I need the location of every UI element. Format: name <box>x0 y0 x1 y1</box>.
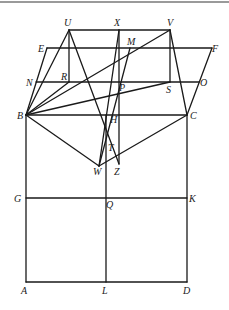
segment-MW <box>99 48 130 166</box>
point-label-O: O <box>200 77 207 88</box>
point-label-W: W <box>93 166 103 177</box>
point-label-C: C <box>190 110 197 121</box>
point-label-A: A <box>20 285 28 296</box>
point-label-K: K <box>188 193 197 204</box>
point-label-U: U <box>64 17 72 28</box>
point-label-V: V <box>167 17 175 28</box>
point-label-N: N <box>25 77 34 88</box>
segments-group <box>26 30 212 282</box>
point-label-L: L <box>101 285 108 296</box>
point-label-H: H <box>109 114 118 125</box>
point-label-Q: Q <box>106 199 114 210</box>
segment-BW <box>26 115 99 166</box>
segment-CV <box>170 30 187 115</box>
geometry-figure: UXVEMFNRPSOBHCTWZGQKALD <box>0 0 229 310</box>
point-label-P: P <box>118 82 125 93</box>
point-label-Z: Z <box>114 166 120 177</box>
point-label-D: D <box>182 285 191 296</box>
point-label-S: S <box>166 84 171 95</box>
point-label-E: E <box>37 43 44 54</box>
point-label-G: G <box>14 193 21 204</box>
point-label-R: R <box>60 71 67 82</box>
point-label-M: M <box>126 36 136 47</box>
point-label-B: B <box>17 110 23 121</box>
point-label-F: F <box>211 43 219 54</box>
point-label-X: X <box>113 17 121 28</box>
